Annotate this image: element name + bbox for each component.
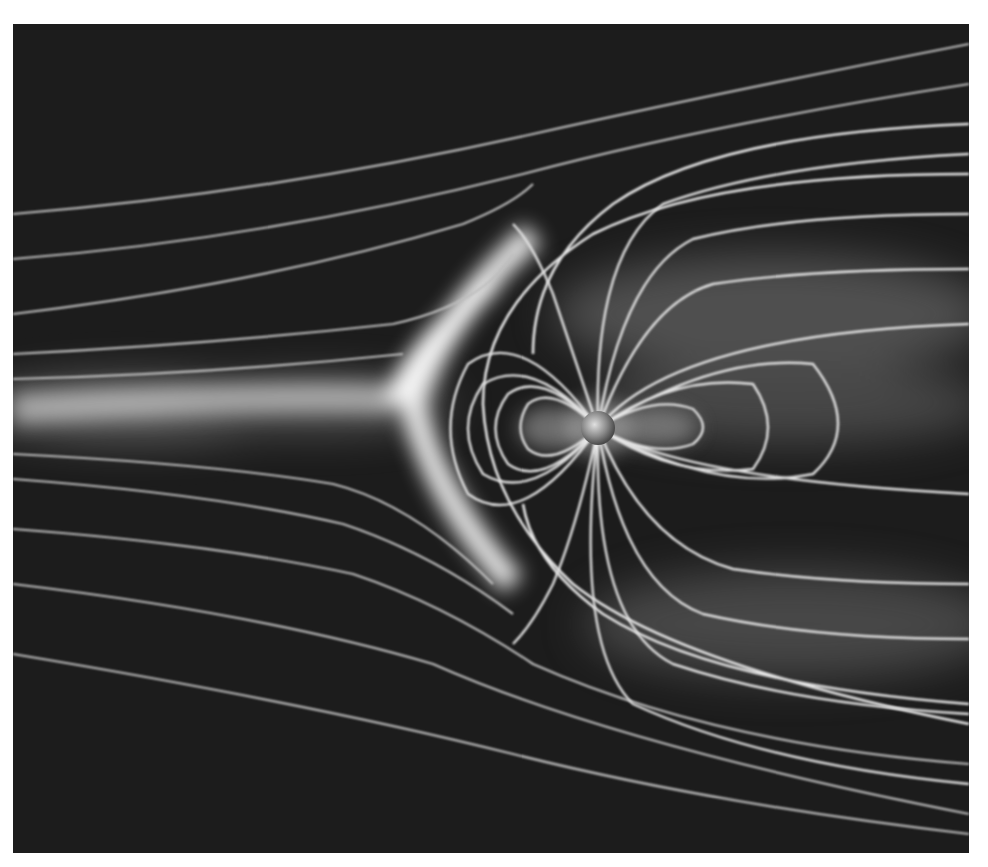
magnetosphere-image: Planetary magnetosphere field lines <box>13 24 969 853</box>
plasma-haze <box>13 254 969 679</box>
bow-shock-glow <box>13 234 533 584</box>
magnetotail-lines <box>513 154 969 784</box>
field-lines-illustration <box>13 24 969 853</box>
planet <box>568 398 628 458</box>
